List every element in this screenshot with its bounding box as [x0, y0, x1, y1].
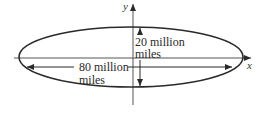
- x-axis-label: x: [246, 59, 252, 71]
- horizontal-dimension-label-line1: 80 million: [79, 60, 129, 74]
- y-axis-label: y: [122, 0, 128, 12]
- horizontal-dimension-label-line2: miles: [79, 73, 105, 87]
- ellipse-diagram: y x 20 million miles 80 million miles: [0, 0, 266, 114]
- orbit-ellipse: [19, 27, 243, 87]
- vertical-dimension-label-line2: miles: [135, 47, 161, 61]
